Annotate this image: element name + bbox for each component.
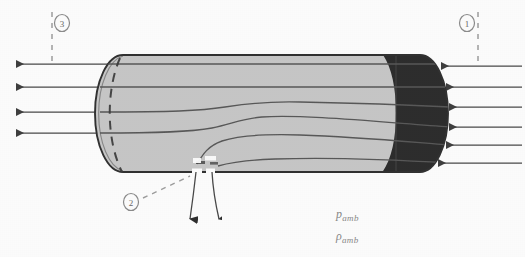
- streamline-1: [100, 63, 445, 64]
- orifice-lip-right: [210, 162, 218, 165]
- orifice-highlight: [193, 158, 201, 163]
- ambient-density-subscript: amb: [342, 235, 359, 245]
- ambient-pressure-symbol: p: [335, 207, 342, 221]
- cylinder-body: [95, 40, 470, 186]
- station-callout-3[interactable]: 3: [55, 15, 70, 32]
- station-2-number: 2: [129, 198, 134, 208]
- ambient-pressure-label: pamb: [335, 207, 359, 223]
- ambient-labels: pamb ρamb: [335, 207, 359, 245]
- station-3-number: 3: [60, 19, 65, 29]
- orifice-gap-opening: [192, 169, 202, 174]
- ambient-pressure-subscript: amb: [342, 213, 359, 223]
- streamline-2: [100, 86, 448, 87]
- ambient-density-symbol: ρ: [335, 229, 342, 243]
- station-2-leader-line: [143, 176, 190, 198]
- vent-arrow-left: [190, 172, 196, 219]
- vent-arrow-group: [190, 172, 219, 219]
- station-callout-2[interactable]: 2: [124, 194, 139, 211]
- inflow-arrow-group-right: [438, 66, 522, 163]
- schematic-diagram: 3 1 2 pamb ρamb: [0, 0, 525, 257]
- orifice-gap-opening-2: [206, 169, 215, 174]
- vent-arrow-right: [212, 172, 219, 219]
- ambient-density-label: ρamb: [335, 229, 359, 245]
- station-callout-1[interactable]: 1: [460, 15, 475, 32]
- station-1-number: 1: [465, 19, 470, 29]
- figure-canvas: 3 1 2 pamb ρamb: [0, 0, 525, 257]
- orifice-highlight-2: [205, 156, 216, 161]
